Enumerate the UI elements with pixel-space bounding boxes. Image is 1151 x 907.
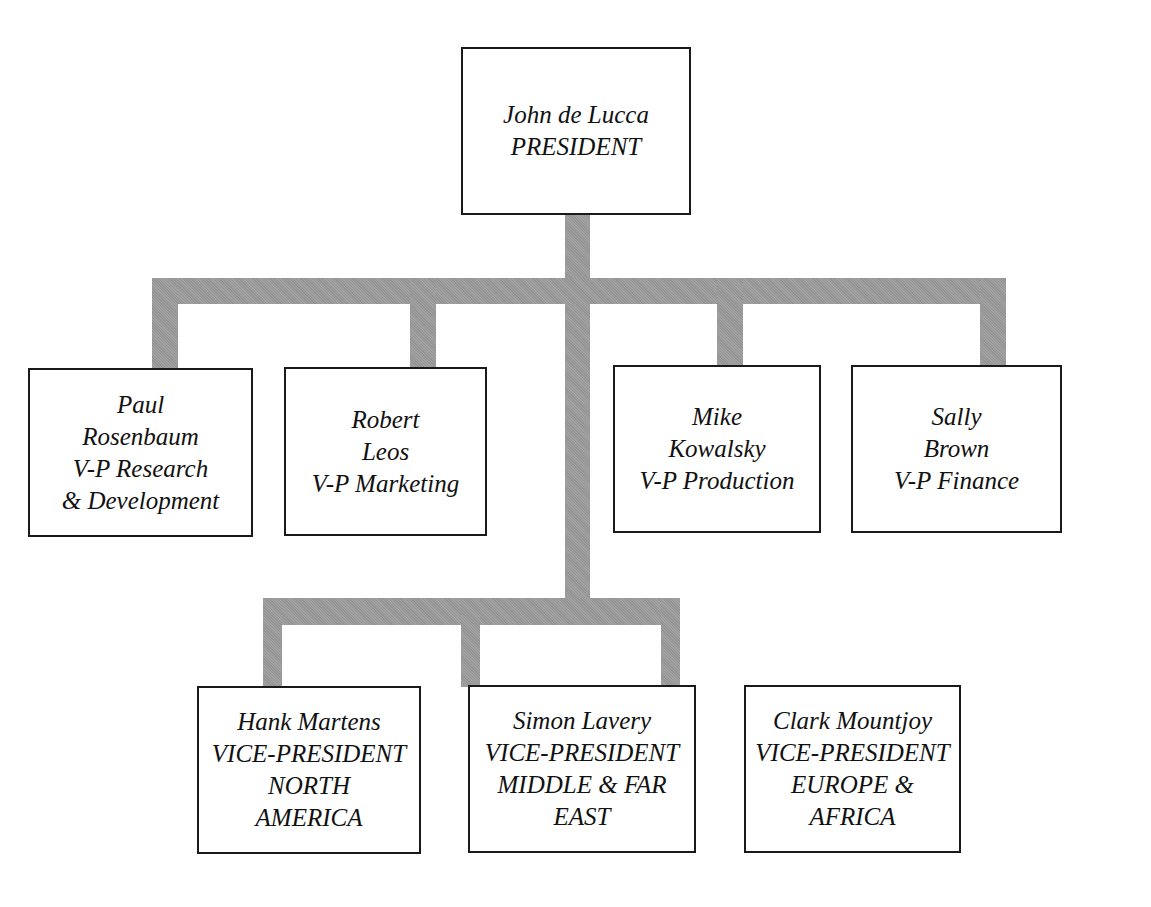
connector-drop-vp-4 xyxy=(980,278,1006,367)
regional-vp-region-cont: AFRICA xyxy=(809,801,895,833)
org-box-vp-north-america: Hank Martens VICE-PRESIDENT NORTH AMERIC… xyxy=(197,686,421,854)
president-name: John de Lucca xyxy=(503,99,649,131)
org-box-president: John de Lucca PRESIDENT xyxy=(461,47,691,215)
connector-drop-vp-1 xyxy=(152,278,178,370)
regional-vp-region: EUROPE & xyxy=(791,769,914,801)
org-box-vp-europe-africa: Clark Mountjoy VICE-PRESIDENT EUROPE & A… xyxy=(744,685,961,853)
vp-name-first: Robert xyxy=(351,404,419,436)
connector-top-bar xyxy=(152,278,1005,304)
vp-name-first: Mike xyxy=(692,401,742,433)
vp-name-first: Paul xyxy=(117,389,164,421)
regional-vp-name: Simon Lavery xyxy=(513,705,651,737)
president-title: PRESIDENT xyxy=(511,131,642,163)
regional-vp-region-cont: AMERICA xyxy=(256,802,363,834)
vp-name-first: Sally xyxy=(932,401,982,433)
connector-drop-regional-3 xyxy=(661,598,680,687)
regional-vp-title: VICE-PRESIDENT xyxy=(755,737,949,769)
vp-title: V-P Finance xyxy=(894,465,1019,497)
org-box-vp-middle-far-east: Simon Lavery VICE-PRESIDENT MIDDLE & FAR… xyxy=(468,685,696,853)
regional-vp-name: Clark Mountjoy xyxy=(773,705,932,737)
connector-drop-regional-2 xyxy=(461,598,480,687)
regional-vp-region-cont: EAST xyxy=(554,801,611,833)
regional-vp-name: Hank Martens xyxy=(237,706,381,738)
connector-drop-vp-2 xyxy=(410,278,436,369)
regional-vp-title: VICE-PRESIDENT xyxy=(485,737,679,769)
regional-vp-region: NORTH xyxy=(268,770,350,802)
vp-title: V-P Research xyxy=(73,453,208,485)
vp-title-cont: & Development xyxy=(62,485,220,517)
vp-name-last: Rosenbaum xyxy=(82,421,199,453)
vp-name-last: Brown xyxy=(924,433,990,465)
vp-name-last: Kowalsky xyxy=(668,433,765,465)
connector-drop-regional-1 xyxy=(263,598,282,688)
vp-name-last: Leos xyxy=(362,436,409,468)
org-box-vp-marketing: Robert Leos V-P Marketing xyxy=(284,367,487,536)
org-box-vp-research: Paul Rosenbaum V-P Research & Developmen… xyxy=(28,368,253,537)
connector-trunk xyxy=(565,214,590,600)
regional-vp-title: VICE-PRESIDENT xyxy=(212,738,406,770)
vp-title: V-P Marketing xyxy=(312,468,459,500)
vp-title: V-P Production xyxy=(640,465,795,497)
org-box-vp-finance: Sally Brown V-P Finance xyxy=(851,365,1062,533)
connector-drop-vp-3 xyxy=(717,278,743,367)
regional-vp-region: MIDDLE & FAR xyxy=(498,769,667,801)
org-box-vp-production: Mike Kowalsky V-P Production xyxy=(613,365,821,533)
